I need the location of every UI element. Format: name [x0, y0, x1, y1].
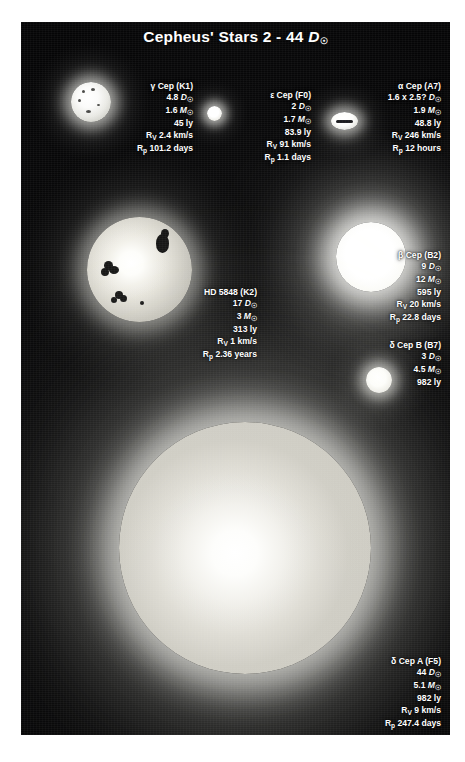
star-name: ε Cep (F0) [225, 90, 311, 101]
radial-velocity-symbol: RV [401, 705, 412, 718]
rotation-period-symbol: Rp [390, 312, 400, 325]
starspot [86, 110, 91, 113]
star-label-delta-cep-b: δ Cep B (B7) 3 D☉ 4.5 M☉ 982 ly [351, 340, 441, 389]
rotation-period-symbol: Rp [385, 718, 395, 731]
star-rotation-period-row: Rp 12 hours [323, 143, 441, 156]
star-name: δ Cep B (B7) [351, 340, 441, 351]
star-radial-velocity: 20 km/s [409, 299, 441, 309]
star-mass: 4.5 M☉ [351, 364, 441, 377]
star-distance: 83.9 ly [225, 127, 311, 138]
star-radial-velocity: 2.4 km/s [159, 130, 193, 140]
rotation-period-symbol: Rp [264, 152, 274, 165]
star-diameter: 2 D☉ [225, 101, 311, 114]
star-mass: 12 M☉ [341, 274, 441, 287]
star-label-gamma-cep: γ Cep (K1) 4.8 D☉ 1.6 M☉ 45 ly RV 2.4 km… [95, 81, 193, 155]
starspot [101, 268, 109, 276]
star-radial-velocity: 91 km/s [279, 139, 311, 149]
star-radial-velocity: 1 km/s [230, 336, 257, 346]
star-mass: 3 M☉ [149, 311, 257, 324]
figure-title: Cepheus' Stars 2 - 44 D☉ [21, 28, 450, 46]
star-disc-epsilon-cep [207, 106, 222, 121]
star-name: δ Cep A (F5) [339, 656, 441, 667]
figure-title-text: Cepheus' Stars 2 - 44 [143, 28, 303, 45]
star-mass: 1.7 M☉ [225, 114, 311, 127]
star-distance: 982 ly [351, 377, 441, 388]
star-size-comparison-figure: Cepheus' Stars 2 - 44 D☉ γ Cep (K1) 4.8 … [0, 0, 465, 762]
rotation-period-symbol: Rp [203, 349, 213, 362]
star-distance: 595 ly [341, 287, 441, 298]
radial-velocity-symbol: RV [146, 130, 157, 143]
star-radial-velocity-row: RV 2.4 km/s [95, 130, 193, 143]
star-radial-velocity-row: RV 1 km/s [149, 336, 257, 349]
starspot [120, 295, 127, 302]
star-radial-velocity-row: RV 20 km/s [341, 299, 441, 312]
star-rotation-period-row: Rp 247.4 days [339, 718, 441, 731]
starspot [78, 99, 81, 102]
star-diameter: 44 D☉ [339, 667, 441, 680]
star-rotation-period: 22.8 days [402, 312, 441, 322]
star-distance: 45 ly [95, 118, 193, 129]
star-rotation-period: 247.4 days [398, 718, 441, 728]
radial-velocity-symbol: RV [217, 336, 228, 349]
star-rotation-period: 101.2 days [150, 143, 193, 153]
radial-velocity-symbol: RV [266, 139, 277, 152]
star-diameter: 17 D☉ [149, 298, 257, 311]
figure-plate: Cepheus' Stars 2 - 44 D☉ γ Cep (K1) 4.8 … [21, 22, 450, 735]
star-mass: 1.6 M☉ [95, 105, 193, 118]
star-radial-velocity-row: RV 246 km/s [323, 130, 441, 143]
star-diameter: 3 D☉ [351, 351, 441, 364]
star-distance: 48.8 ly [323, 118, 441, 129]
star-diameter: 9 D☉ [341, 261, 441, 274]
star-rotation-period: 1.1 days [277, 152, 311, 162]
star-radial-velocity-row: RV 9 km/s [339, 705, 441, 718]
starspot [111, 297, 117, 303]
starspot [161, 229, 169, 238]
rotation-period-symbol: Rp [393, 143, 403, 156]
star-rotation-period: 12 hours [405, 143, 441, 153]
starspot [82, 90, 85, 93]
star-radial-velocity: 9 km/s [414, 705, 441, 715]
rotation-period-symbol: Rp [137, 143, 147, 156]
star-mass: 1.9 M☉ [323, 105, 441, 118]
figure-title-unit-sub: ☉ [320, 36, 328, 46]
star-rotation-period-row: Rp 2.36 years [149, 349, 257, 362]
starspot [109, 266, 119, 274]
star-name: β Cep (B2) [341, 250, 441, 261]
star-label-epsilon-cep: ε Cep (F0) 2 D☉ 1.7 M☉ 83.9 ly RV 91 km/… [225, 90, 311, 164]
star-name: α Cep (A7) [323, 81, 441, 92]
star-label-hd-5848: HD 5848 (K2) 17 D☉ 3 M☉ 313 ly RV 1 km/s… [149, 287, 257, 361]
star-name: γ Cep (K1) [95, 81, 193, 92]
star-distance: 313 ly [149, 324, 257, 335]
star-radial-velocity-row: RV 91 km/s [225, 139, 311, 152]
starspot [140, 301, 144, 305]
star-label-alpha-cep: α Cep (A7) 1.6 x 2.5? D☉ 1.9 M☉ 48.8 ly … [323, 81, 441, 155]
figure-title-unit: D [308, 28, 319, 45]
radial-velocity-symbol: RV [396, 299, 407, 312]
star-mass: 5.1 M☉ [339, 680, 441, 693]
star-radial-velocity: 246 km/s [405, 130, 441, 140]
star-diameter: 1.6 x 2.5? D☉ [323, 92, 441, 105]
star-rotation-period-row: Rp 101.2 days [95, 143, 193, 156]
star-rotation-period-row: Rp 1.1 days [225, 152, 311, 165]
star-label-beta-cep: β Cep (B2) 9 D☉ 12 M☉ 595 ly RV 20 km/s … [341, 250, 441, 324]
star-diameter: 4.8 D☉ [95, 92, 193, 105]
star-name: HD 5848 (K2) [149, 287, 257, 298]
radial-velocity-symbol: RV [392, 130, 403, 143]
star-distance: 982 ly [339, 693, 441, 704]
star-disc-delta-cep-a [119, 422, 371, 674]
star-rotation-period: 2.36 years [215, 349, 257, 359]
star-rotation-period-row: Rp 22.8 days [341, 312, 441, 325]
star-label-delta-cep-a: δ Cep A (F5) 44 D☉ 5.1 M☉ 982 ly RV 9 km… [339, 656, 441, 730]
